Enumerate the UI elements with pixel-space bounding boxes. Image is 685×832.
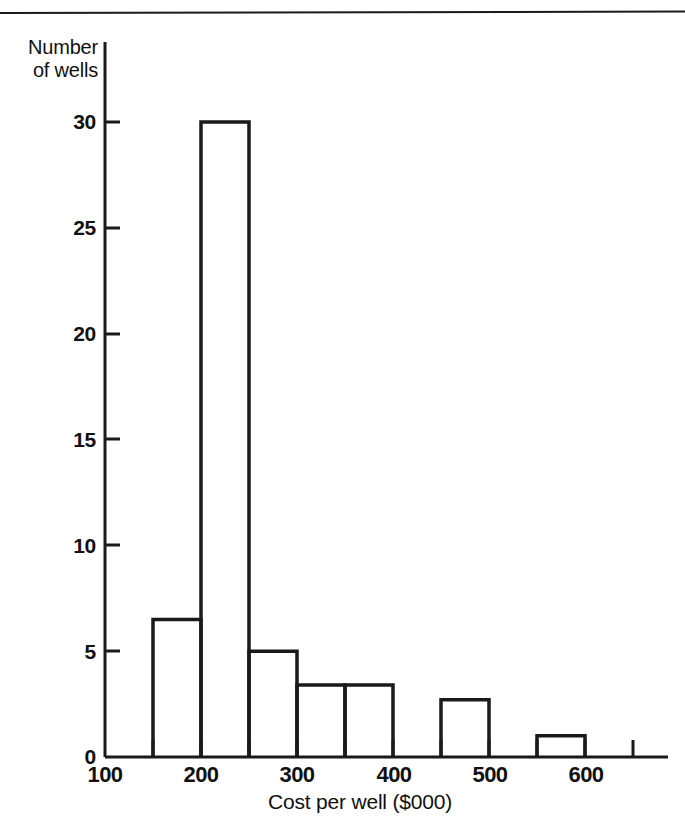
axis-lines [105,42,668,757]
histogram-bar [249,651,297,757]
histogram-bar [297,685,345,757]
histogram-bar [537,736,585,757]
histogram-bar [345,685,393,757]
plot-area: Number of wells 30 25 20 15 10 5 0 100 2… [0,0,685,832]
histogram-bar [201,122,249,757]
histogram-bar [441,700,489,757]
y-axis-ticks [105,122,120,651]
histogram-bars [153,122,585,757]
histogram-bar [153,619,201,757]
chart-canvas [0,0,685,832]
histogram-figure: Number of wells 30 25 20 15 10 5 0 100 2… [0,0,685,832]
